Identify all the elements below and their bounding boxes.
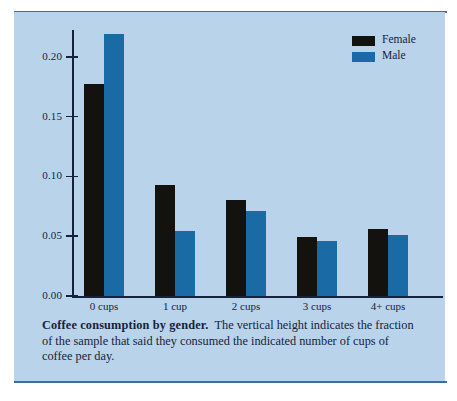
figure-caption: Coffee consumption by gender.The vertica… — [42, 318, 420, 365]
y-tick-label: 0.05 — [26, 229, 62, 241]
legend-item: Male — [352, 49, 442, 65]
x-tick-label: 2 cups — [211, 300, 281, 312]
y-tick-label: 0.00 — [26, 289, 62, 301]
bar-groups — [73, 30, 443, 296]
figure-container: 0.000.050.100.150.20 0 cups1 cup2 cups3 … — [0, 0, 457, 401]
bar-female — [297, 237, 317, 296]
bar-group — [155, 30, 195, 296]
x-tick-label: 0 cups — [69, 300, 139, 312]
y-tick-label: 0.20 — [26, 50, 62, 62]
y-tick-label: 0.10 — [26, 169, 62, 181]
caption-lead: Coffee consumption by gender. — [42, 318, 209, 332]
x-tick-label: 3 cups — [282, 300, 352, 312]
x-tick-label: 1 cup — [140, 300, 210, 312]
bar-male — [388, 235, 408, 296]
bar-male — [317, 241, 337, 296]
legend-swatch-female — [352, 36, 375, 46]
bar-group — [297, 30, 337, 296]
y-tick-label: 0.15 — [26, 110, 62, 122]
legend-label: Female — [382, 33, 416, 45]
bar-group — [368, 30, 408, 296]
x-axis-line — [72, 296, 443, 298]
bar-group — [226, 30, 266, 296]
bar-female — [84, 84, 104, 296]
bar-male — [175, 231, 195, 296]
bar-male — [104, 34, 124, 296]
bar-male — [246, 211, 266, 296]
bar-female — [368, 229, 388, 296]
bar-female — [155, 185, 175, 296]
x-tick-label: 4+ cups — [353, 300, 423, 312]
bottom-rule — [14, 381, 447, 383]
legend-item: Female — [352, 33, 442, 49]
legend-label: Male — [382, 49, 406, 61]
bar-female — [226, 200, 246, 296]
chart-legend: FemaleMale — [352, 33, 442, 65]
legend-swatch-male — [352, 52, 375, 62]
bar-group — [84, 30, 124, 296]
